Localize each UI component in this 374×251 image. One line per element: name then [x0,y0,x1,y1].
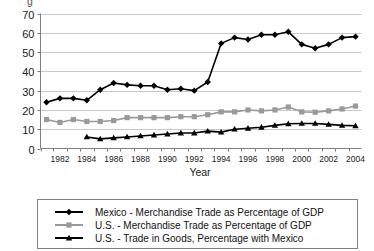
series-2 [44,103,358,125]
x-axis-title: Year [189,166,211,178]
data-point-marker [138,115,143,120]
data-point-marker [352,33,358,39]
x-axis-labels-group: 1982198419861988199019921994199619982000… [50,154,365,164]
data-point-marker [165,115,170,120]
data-point-marker [57,120,62,125]
x-axis-tick-label: 1994 [212,154,231,164]
y-axis-tick-label: 70 [22,9,34,21]
data-point-marker [66,222,71,227]
x-axis-tick-label: 2000 [292,154,311,164]
data-point-marker [259,108,264,113]
x-axis-tick-label: 1990 [158,154,177,164]
legend-entries-group: Mexico - Merchandise Trade as Percentage… [55,207,324,244]
y-axis-labels-group: 010203040506070 [22,9,34,156]
data-point-marker [44,117,49,122]
x-axis-tick-label: 1988 [131,154,150,164]
data-point-marker [151,115,156,120]
y-axis-tick-label: 50 [22,47,34,59]
data-point-marker [326,108,331,113]
data-point-marker [137,83,143,89]
x-axis-tick-label: 2004 [346,154,365,164]
data-point-marker [353,103,358,108]
data-point-marker [339,34,345,40]
y-axis-tick-label: 0 [28,144,34,156]
data-point-marker [192,114,197,119]
data-point-marker [325,41,331,47]
data-point-marker [299,109,304,114]
data-point-marker [205,112,210,117]
data-point-marker [245,36,251,42]
data-point-marker [313,110,318,115]
y-axis-tick-label: 40 [22,66,34,78]
data-point-marker [57,95,63,101]
data-point-marker [178,114,183,119]
x-axis-tick-label: 1984 [77,154,96,164]
data-point-marker [111,118,116,123]
data-point-marker [272,32,278,38]
data-point-marker [43,99,49,105]
data-point-marker [232,109,237,114]
x-axis-tick-label: 2002 [319,154,338,164]
y-axis-tick-label: 60 [22,28,34,40]
data-point-marker [151,83,157,89]
data-point-marker [110,80,116,86]
x-axis-tick-label: 1996 [239,154,258,164]
chart-figure: g 010203040506070 1982198419861988199019… [0,0,374,251]
legend-label: Mexico - Merchandise Trade as Percentage… [95,207,324,218]
data-point-marker [125,115,130,120]
data-point-marker [258,32,264,38]
x-axis-tick-label: 1998 [265,154,284,164]
y-axis-tick-label: 30 [22,86,34,98]
data-point-marker [245,107,250,112]
data-point-marker [98,119,103,124]
legend-item-1: Mexico - Merchandise Trade as Percentage… [55,207,324,218]
y-axis-tick-label: 20 [22,105,34,117]
x-axis-tick-label: 1982 [50,154,69,164]
data-point-marker [312,45,318,51]
data-series-group [43,29,358,142]
data-point-marker [70,95,76,101]
series-1 [43,29,358,106]
legend-label: U.S. - Trade in Goods, Percentage with M… [95,233,304,244]
data-point-marker [339,106,344,111]
data-point-marker [219,109,224,114]
series-line [47,106,356,122]
data-point-marker [71,117,76,122]
data-point-marker [178,86,184,92]
clipped-title-text: g [27,0,33,7]
data-point-marker [218,40,224,46]
y-axis-tick-label: 10 [22,124,34,136]
data-point-marker [124,82,130,88]
series-3 [84,120,359,141]
data-point-marker [84,119,89,124]
trade-percentage-line-chart: g 010203040506070 1982198419861988199019… [0,0,374,251]
x-axis-tick-label: 1992 [185,154,204,164]
data-point-marker [231,34,237,40]
data-point-marker [286,104,291,109]
x-axis-tick-label: 1986 [104,154,123,164]
legend-label: U.S. - Merchandise Trade as Percentage o… [95,220,312,231]
data-point-marker [272,107,277,112]
